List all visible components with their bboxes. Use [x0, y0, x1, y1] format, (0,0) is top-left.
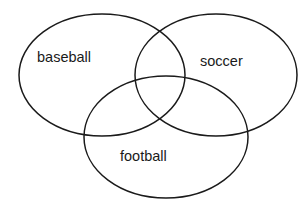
- set-soccer-ellipse: [135, 14, 297, 136]
- set-football-label: football: [120, 148, 167, 164]
- set-football-ellipse: [84, 76, 248, 198]
- set-baseball-ellipse: [19, 14, 185, 136]
- venn-diagram: baseball soccer football: [0, 0, 307, 215]
- set-soccer-label: soccer: [200, 53, 243, 69]
- set-baseball-label: baseball: [37, 49, 91, 65]
